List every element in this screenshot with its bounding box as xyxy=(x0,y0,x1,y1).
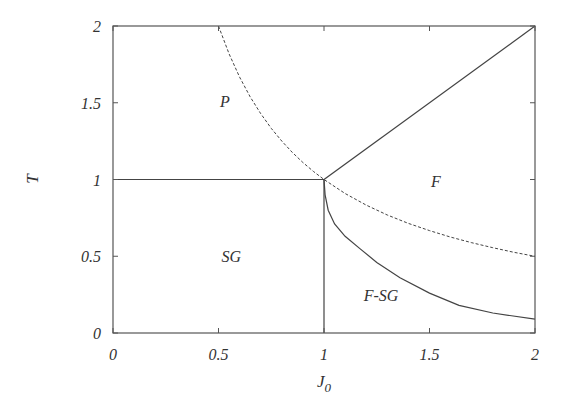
y-tick-label: 0.5 xyxy=(81,248,101,265)
x-tick-label: 1.5 xyxy=(420,346,440,363)
y-axis-label: T xyxy=(23,173,42,184)
y-tick-label: 2 xyxy=(93,18,101,35)
series-line-4 xyxy=(324,180,535,320)
region-label-f: F xyxy=(430,173,441,190)
x-tick-label: 0 xyxy=(109,346,117,363)
x-tick-label: 1 xyxy=(320,346,328,363)
y-tick-labels: 00.511.52 xyxy=(81,18,101,342)
series-layer xyxy=(113,26,535,333)
series-line-2 xyxy=(324,26,535,180)
x-axis-label: J0 xyxy=(317,372,332,395)
y-tick-label: 1.5 xyxy=(81,95,101,112)
region-label-sg: SG xyxy=(221,248,241,265)
region-labels: PFSGF-SG xyxy=(219,93,441,303)
x-tick-labels: 00.511.52 xyxy=(109,346,539,363)
x-tick-label: 0.5 xyxy=(209,346,229,363)
x-tick-label: 2 xyxy=(531,346,539,363)
y-tick-label: 0 xyxy=(93,325,101,342)
y-tick-label: 1 xyxy=(93,172,101,189)
region-label-f-sg: F-SG xyxy=(363,287,399,304)
phase-diagram-chart: 00.511.52 00.511.52 PFSGF-SG J0 T xyxy=(0,0,569,410)
region-label-p: P xyxy=(219,93,230,110)
